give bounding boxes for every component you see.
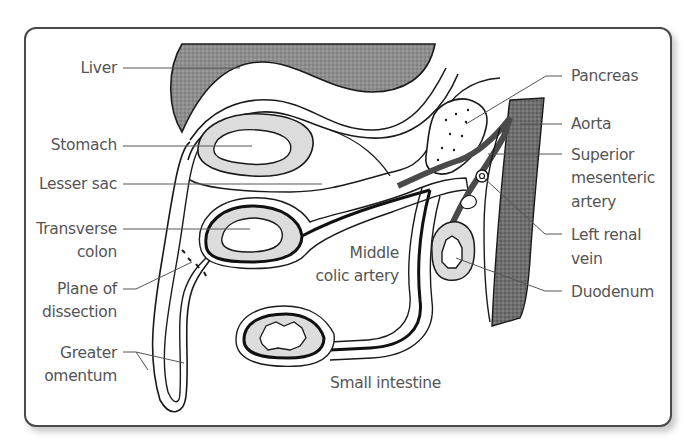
label-left-renal-vein-line1: Left renal xyxy=(571,223,641,247)
label-pancreas: Pancreas xyxy=(571,64,638,88)
label-small-intestine: Small intestine xyxy=(330,371,441,395)
liver-shape xyxy=(171,44,435,132)
label-lesser-sac: Lesser sac xyxy=(39,172,117,196)
label-middle-colic-artery-line2: colic artery xyxy=(316,264,400,288)
label-aorta: Aorta xyxy=(571,112,611,136)
label-liver: Liver xyxy=(80,56,117,80)
label-plane-of-dissection-line1: Plane of xyxy=(57,277,117,301)
label-sma-line1: Superior xyxy=(571,143,634,167)
label-greater-omentum-line2: omentum xyxy=(44,364,117,388)
label-greater-omentum-line1: Greater xyxy=(60,341,117,365)
label-sma-line3: artery xyxy=(571,190,616,214)
label-left-renal-vein-line2: vein xyxy=(571,247,603,271)
label-stomach: Stomach xyxy=(51,133,117,157)
label-middle-colic-artery-line1: Middle xyxy=(350,241,399,265)
label-sma-line2: mesenteric xyxy=(571,166,655,190)
label-plane-of-dissection-line2: dissection xyxy=(42,300,117,324)
label-transverse-colon-line1: Transverse xyxy=(36,217,117,241)
label-transverse-colon-line2: colon xyxy=(77,240,117,264)
label-duodenum: Duodenum xyxy=(571,280,654,304)
